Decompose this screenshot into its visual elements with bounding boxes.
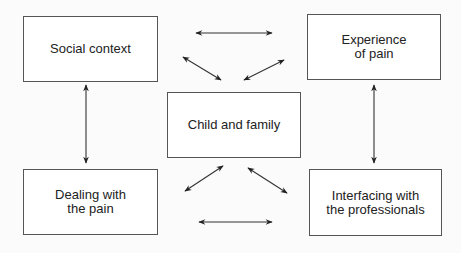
node-dealing-with-pain: Dealing with the pain	[23, 169, 158, 235]
node-label: Experience of pain	[341, 33, 406, 61]
node-label: Social context	[50, 42, 131, 56]
node-interfacing-professionals: Interfacing with the professionals	[309, 169, 442, 236]
node-child-and-family: Child and family	[167, 92, 301, 158]
node-experience-of-pain: Experience of pain	[307, 14, 441, 80]
arrow-child-interfacing	[248, 168, 287, 193]
arrow-child-experience	[244, 60, 284, 80]
arrow-child-social	[183, 57, 221, 80]
arrow-child-dealing	[185, 166, 223, 191]
node-label: Dealing with the pain	[55, 188, 126, 216]
diagram-canvas: Social context Experience of pain Child …	[0, 0, 461, 253]
node-label: Interfacing with the professionals	[326, 189, 424, 217]
node-social-context: Social context	[23, 16, 158, 82]
node-label: Child and family	[188, 118, 281, 132]
